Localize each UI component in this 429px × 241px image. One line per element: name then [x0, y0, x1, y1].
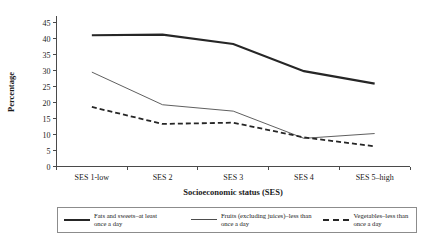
- y-tick-label: 10: [43, 131, 51, 140]
- series-lines: [92, 35, 375, 147]
- line-chart-canvas: 051015202530354045 Percentage Socioecono…: [0, 0, 429, 241]
- legend-swatch-fruits-line-icon: [191, 215, 217, 225]
- series-line-fats: [92, 35, 375, 84]
- legend-label-vegetables-line2: once a day: [353, 220, 408, 228]
- legend-label-vegetables: Vegetables–less than once a day: [353, 212, 408, 229]
- legend-label-fats: Fats and sweets–at least once a day: [94, 212, 157, 229]
- legend-item-fruits: Fruits (excluding juices)–less than once…: [185, 212, 318, 229]
- x-tick-label: SES 5–high: [356, 173, 394, 182]
- x-tick-label: SES 4: [294, 173, 314, 182]
- legend-label-fats-line1: Fats and sweets–at least: [94, 212, 157, 220]
- y-tick-label: 25: [43, 83, 51, 92]
- legend-swatch-fats-line-icon: [64, 215, 90, 225]
- y-axis-title: Percentage: [6, 72, 16, 112]
- legend-label-fruits-line1: Fruits (excluding juices)–less than: [221, 212, 312, 220]
- y-tick-label: 0: [47, 163, 51, 172]
- series-line-vegetables: [92, 107, 375, 146]
- legend-item-fats: Fats and sweets–at least once a day: [58, 212, 185, 229]
- y-tick-label: 20: [43, 99, 51, 108]
- y-tick-label: 5: [47, 147, 51, 156]
- legend-item-vegetables: Vegetables–less than once a day: [317, 212, 416, 229]
- x-axis-title: Socioeconomic status (SES): [183, 187, 283, 197]
- chart-figure: 051015202530354045 Percentage Socioecono…: [0, 0, 429, 241]
- x-tick-label: SES 2: [153, 173, 173, 182]
- y-axis-ticks: 051015202530354045: [43, 19, 57, 172]
- legend-label-fats-line2: once a day: [94, 220, 157, 228]
- legend-label-fruits-line2: once a day: [221, 220, 312, 228]
- y-tick-label: 45: [43, 19, 51, 28]
- y-tick-label: 15: [43, 115, 51, 124]
- y-tick-label: 40: [43, 35, 51, 44]
- x-axis-labels: SES 1-lowSES 2SES 3SES 4SES 5–high: [75, 173, 394, 182]
- chart-legend: Fats and sweets–at least once a day Frui…: [57, 207, 417, 233]
- x-tick-label: SES 1-low: [75, 173, 110, 182]
- y-tick-label: 35: [43, 51, 51, 60]
- legend-swatch-vegetables-line-icon: [323, 215, 349, 225]
- x-tick-label: SES 3: [223, 173, 243, 182]
- series-line-fruits: [92, 72, 375, 138]
- legend-label-fruits: Fruits (excluding juices)–less than once…: [221, 212, 312, 229]
- y-tick-label: 30: [43, 67, 51, 76]
- legend-label-vegetables-line1: Vegetables–less than: [353, 212, 408, 220]
- x-axis-ticks: [57, 167, 411, 171]
